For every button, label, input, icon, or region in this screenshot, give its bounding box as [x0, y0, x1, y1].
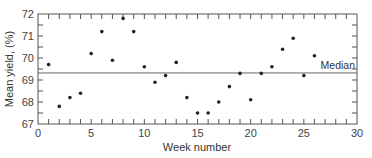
- y-tick-label: 68: [22, 96, 34, 108]
- data-point: [121, 17, 125, 21]
- data-point: [111, 58, 115, 62]
- data-point: [132, 30, 136, 34]
- data-point: [174, 61, 178, 65]
- y-tick-label: 70: [22, 52, 34, 64]
- x-tick-label: 30: [351, 127, 363, 139]
- data-point: [249, 98, 253, 102]
- axis-ticks: [38, 14, 357, 124]
- data-point: [291, 36, 295, 40]
- x-tick-label: 15: [191, 127, 203, 139]
- data-point: [302, 74, 306, 78]
- data-point: [313, 54, 317, 58]
- scatter-chart: Mean yield, (%) Week number 051015202530…: [0, 0, 372, 158]
- data-points: [47, 17, 316, 115]
- data-point: [206, 111, 210, 115]
- data-point: [68, 96, 72, 100]
- data-point: [238, 72, 242, 76]
- y-tick-label: 71: [22, 30, 34, 42]
- plot-frame: [38, 14, 357, 124]
- data-point: [100, 30, 104, 34]
- data-point: [281, 47, 285, 51]
- y-tick-label: 69: [22, 74, 34, 86]
- x-tick-label: 10: [138, 127, 150, 139]
- y-tick-label: 67: [22, 118, 34, 130]
- data-point: [79, 91, 83, 95]
- median-reference-line: Median: [38, 59, 357, 73]
- y-axis-title-group: Mean yield, (%): [3, 31, 15, 107]
- y-tick-label: 72: [22, 8, 34, 20]
- data-point: [270, 65, 274, 69]
- data-point: [47, 63, 51, 67]
- data-point: [228, 85, 232, 89]
- x-tick-label: 0: [35, 127, 41, 139]
- data-point: [143, 65, 147, 69]
- y-axis-title: Mean yield, (%): [3, 31, 15, 107]
- data-point: [153, 80, 157, 84]
- data-point: [57, 105, 61, 109]
- data-point: [260, 72, 264, 76]
- data-point: [196, 111, 200, 115]
- x-axis-title: Week number: [163, 141, 232, 153]
- data-point: [89, 52, 93, 56]
- x-tick-label: 20: [245, 127, 257, 139]
- median-label: Median: [321, 59, 356, 71]
- data-point: [185, 96, 189, 100]
- data-point: [217, 100, 221, 104]
- x-tick-label: 25: [298, 127, 310, 139]
- x-tick-label: 5: [88, 127, 94, 139]
- data-point: [164, 74, 168, 78]
- axis-tick-labels: 051015202530676869707172: [22, 8, 363, 139]
